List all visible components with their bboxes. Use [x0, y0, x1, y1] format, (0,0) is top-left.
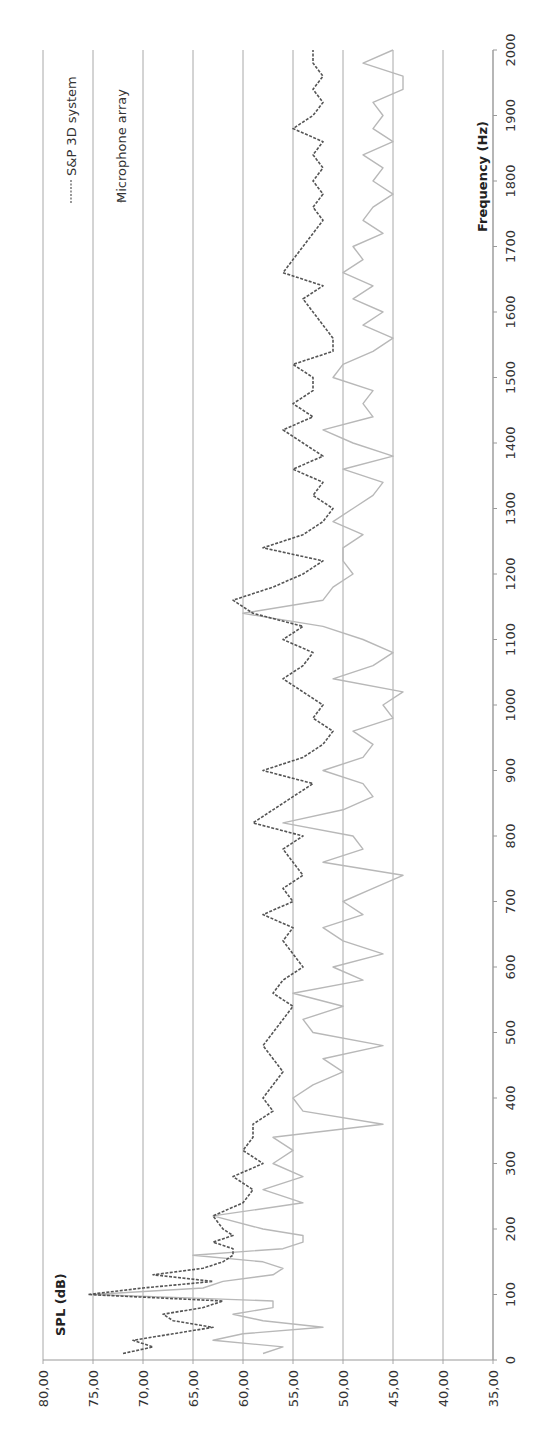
spl-tick-label: 70,00 [136, 1370, 151, 1407]
frequency-tick-label: 600 [503, 955, 518, 980]
frequency-tick-label: 1100 [503, 623, 518, 656]
tick-labels: 80,0075,0070,0065,0060,0055,0050,0045,00… [36, 33, 518, 1407]
frequency-tick-label: 700 [503, 889, 518, 914]
series-line-microphone-array [93, 50, 403, 1354]
frequency-tick-label: 1200 [503, 557, 518, 590]
series-line-sp3d-system [88, 50, 333, 1354]
frequency-tick-label: 300 [503, 1151, 518, 1176]
frequency-tick-label: 200 [503, 1217, 518, 1242]
frequency-tick-label: 1300 [503, 492, 518, 525]
legend-label-microphone: Microphone array [114, 89, 129, 203]
spl-axis-title: SPL (dB) [53, 1273, 68, 1336]
spl-tick-label: 75,00 [86, 1370, 101, 1407]
spl-tick-label: 45,00 [386, 1370, 401, 1407]
gridlines [43, 50, 493, 1364]
frequency-tick-label: 1000 [503, 688, 518, 721]
frequency-tick-label: 900 [503, 758, 518, 783]
frequency-tick-label: 1700 [503, 230, 518, 263]
spl-tick-label: 40,00 [436, 1370, 451, 1407]
frequency-axis-title: Frequency (Hz) [475, 121, 490, 232]
frequency-tick-label: 0 [503, 1356, 518, 1364]
frequency-tick-label: 2000 [503, 33, 518, 66]
frequency-tick-label: 100 [503, 1282, 518, 1307]
spl-tick-label: 60,00 [236, 1370, 251, 1407]
spl-tick-label: 65,00 [186, 1370, 201, 1407]
frequency-tick-label: 500 [503, 1020, 518, 1045]
frequency-tick-label: 1600 [503, 295, 518, 328]
frequency-tick-label: 1400 [503, 426, 518, 459]
frequency-tick-label: 800 [503, 824, 518, 849]
spl-tick-label: 55,00 [286, 1370, 301, 1407]
frequency-tick-label: 1800 [503, 164, 518, 197]
series-lines [88, 50, 403, 1354]
axes [43, 50, 493, 1360]
spl-tick-label: 35,00 [486, 1370, 501, 1407]
spl-tick-label: 50,00 [336, 1370, 351, 1407]
legend: S&P 3D system Microphone array [64, 76, 129, 203]
legend-label-sp3d: S&P 3D system [64, 76, 79, 176]
spl-tick-label: 80,00 [36, 1370, 51, 1407]
spl-frequency-chart: 80,0075,0070,0065,0060,0055,0050,0045,00… [0, 0, 552, 1452]
frequency-tick-label: 400 [503, 1086, 518, 1111]
frequency-tick-label: 1500 [503, 361, 518, 394]
frequency-tick-label: 1900 [503, 99, 518, 132]
